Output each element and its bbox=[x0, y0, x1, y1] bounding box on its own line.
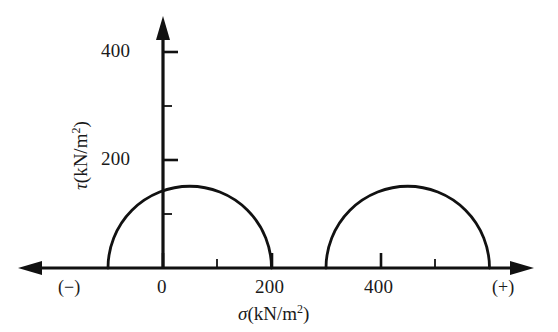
y-axis-title-unit-close: ) bbox=[70, 121, 91, 127]
x-tick-label-400: 400 bbox=[364, 277, 393, 296]
y-tick-label-200: 200 bbox=[101, 149, 130, 168]
y-axis-arrowhead bbox=[156, 16, 170, 40]
x-tick-label-0: 0 bbox=[157, 277, 167, 296]
y-axis-title-unit-superscript: 2 bbox=[69, 128, 83, 134]
x-axis-negative-arrowhead bbox=[18, 261, 42, 275]
x-axis-positive-label: (+) bbox=[492, 278, 514, 296]
y-axis-title-unit-base: (kN/m bbox=[70, 134, 91, 184]
x-axis-title-unit-close: ) bbox=[303, 303, 309, 324]
x-axis-title-symbol: σ bbox=[238, 303, 247, 324]
x-axis-positive-arrowhead bbox=[510, 261, 534, 275]
mohr-semicircle-1 bbox=[108, 186, 272, 268]
y-axis-title: τ(kN/m2) bbox=[70, 121, 90, 190]
x-tick-label-200: 200 bbox=[255, 277, 284, 296]
x-axis-title: σ(kN/m2) bbox=[238, 303, 309, 323]
mohr-semicircle-2 bbox=[326, 186, 490, 268]
mohr-circle-figure: 400 200 0 200 400 (−) (+) σ(kN/m2) τ(kN/… bbox=[0, 0, 558, 332]
x-axis-negative-label: (−) bbox=[58, 278, 80, 296]
y-axis-title-symbol: τ bbox=[70, 183, 91, 190]
x-axis-title-unit-base: (kN/m bbox=[247, 303, 297, 324]
y-tick-label-400: 400 bbox=[101, 41, 130, 60]
